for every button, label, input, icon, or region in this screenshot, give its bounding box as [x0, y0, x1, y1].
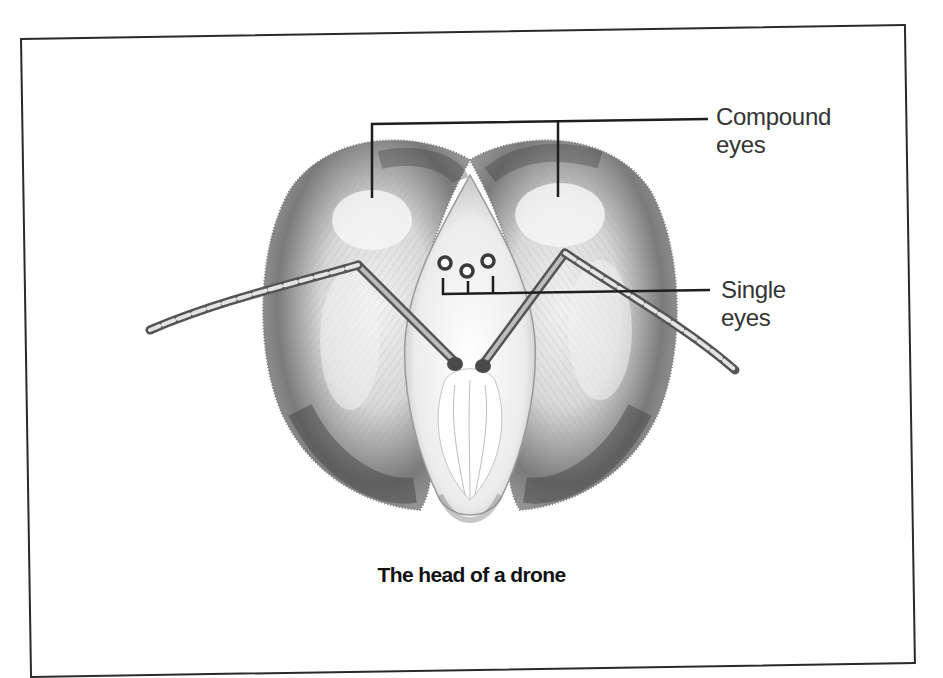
single-eyes-label: Single eyes [721, 276, 786, 332]
compound-eyes-label-line2: eyes [716, 131, 831, 159]
single-eyes-label-line2: eyes [721, 304, 786, 332]
compound-eyes-label: Compound eyes [716, 103, 831, 159]
compound-eyes-label-line1: Compound [716, 103, 831, 131]
figure-caption: The head of a drone [0, 563, 943, 587]
single-eyes-label-line1: Single [721, 276, 786, 304]
